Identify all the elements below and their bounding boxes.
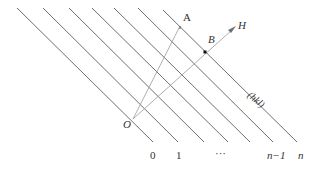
plane-line-3 <box>92 8 228 142</box>
vectors <box>133 26 233 119</box>
vector-oa <box>133 26 180 119</box>
index-label-ellipsis: ··· <box>215 148 226 159</box>
plane-line-2 <box>69 8 204 142</box>
lattice-plane-lines <box>17 8 297 142</box>
diagram-canvas <box>0 0 320 169</box>
point-a-label: A <box>183 12 191 23</box>
index-label-0: 0 <box>150 150 156 161</box>
vector-h-label: H <box>238 20 246 31</box>
point-b-marker <box>204 51 207 54</box>
index-label-1: 1 <box>176 150 182 161</box>
lattice-planes-diagram: O A B H (hkl) 0 1 ··· n−1 n <box>0 0 320 169</box>
index-label-n: n <box>298 150 304 161</box>
point-b-label: B <box>208 34 215 45</box>
origin-label: O <box>123 119 131 130</box>
vector-oh <box>133 29 233 119</box>
index-label-n-minus-1: n−1 <box>267 150 285 161</box>
plane-line-0 <box>17 8 153 142</box>
